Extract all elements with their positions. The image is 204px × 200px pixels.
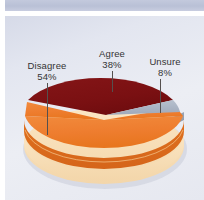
slice-label-disagree-name: Disagree	[28, 60, 67, 71]
slice-label-agree-name: Agree	[99, 48, 125, 59]
slice-label-agree: Agree 38%	[89, 48, 135, 70]
pie-graphic	[5, 16, 204, 200]
leader-line-unsure	[160, 79, 161, 113]
chart-panel: Disagree 54% Agree 38% Unsure 8%	[5, 16, 204, 200]
slice-label-disagree: Disagree 54%	[19, 60, 75, 82]
pie-svg	[5, 16, 204, 200]
slice-label-unsure-value: 8%	[141, 67, 189, 78]
leader-line-disagree	[47, 83, 48, 135]
pie-chart-figure: Disagree 54% Agree 38% Unsure 8%	[0, 0, 204, 200]
slice-label-disagree-value: 54%	[19, 71, 75, 82]
top-decorative-band	[5, 0, 204, 11]
slice-label-unsure-name: Unsure	[149, 56, 180, 67]
leader-line-agree	[112, 71, 113, 92]
slice-label-agree-value: 38%	[89, 59, 135, 70]
slice-label-unsure: Unsure 8%	[141, 56, 189, 78]
